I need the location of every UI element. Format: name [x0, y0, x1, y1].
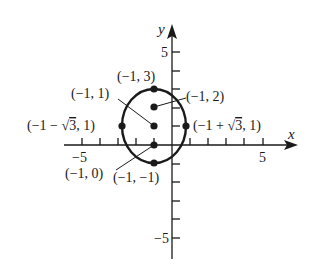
label-right-covertex: (−1 + √3, 1)	[193, 118, 261, 134]
point-right-covertex	[182, 122, 189, 129]
point-focus-lower	[150, 141, 157, 148]
label-focus-upper: (−1, 2)	[186, 89, 225, 105]
label-focus-lower: (−1, 0)	[65, 166, 104, 182]
x-axis	[64, 138, 292, 145]
x-axis-label: x	[287, 126, 295, 142]
y-tick-label-5: 5	[161, 45, 168, 60]
label-bottom-vertex: (−1, −1)	[113, 170, 159, 186]
y-tick-label-neg5: −5	[154, 231, 169, 246]
point-left-covertex	[118, 122, 125, 129]
point-bottom-vertex	[150, 159, 157, 166]
x-tick-label-neg5: −5	[72, 150, 87, 165]
svg-text:(−1 + √3, 1): (−1 + √3, 1)	[193, 118, 261, 134]
label-left-covertex: (−1 − √3, 1)	[27, 118, 95, 134]
point-top-vertex	[150, 85, 157, 92]
label-center: (−1, 1)	[71, 86, 110, 102]
label-top-vertex: (−1, 3)	[117, 69, 156, 85]
point-center	[150, 122, 157, 129]
svg-text:(−1 − √3, 1): (−1 − √3, 1)	[27, 118, 95, 134]
ellipse-diagram: x y −5 5 5 −5 (−1, 3) (−1, 2) (−1, 1) (−…	[0, 0, 311, 271]
x-tick-label-5: 5	[259, 150, 266, 165]
y-axis-label: y	[156, 21, 165, 37]
point-focus-upper	[150, 103, 157, 110]
